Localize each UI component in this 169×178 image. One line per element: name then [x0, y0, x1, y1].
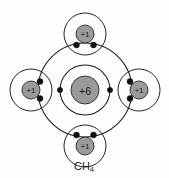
methane-molecule-illustration: +6 +1 +1 +1 +1 CH4: [0, 0, 169, 178]
bond-electron-right-lower-dot: [127, 96, 133, 102]
formula-base: CH: [74, 160, 90, 172]
inner-electron-left-dot: [57, 87, 62, 92]
bond-electron-left-upper-dot: [37, 79, 43, 85]
inner-electron-right-dot: [107, 87, 112, 92]
carbon-nucleus-charge-label: +6: [79, 85, 91, 97]
bond-electron-top-right-dot: [91, 42, 97, 48]
top-hydrogen-charge-label: +1: [80, 30, 90, 39]
bond-electron-right-upper-dot: [127, 79, 133, 85]
methane-diagram-canvas: +6 +1 +1 +1 +1 CH4: [0, 0, 169, 178]
bottom-hydrogen-charge-label: +1: [80, 142, 90, 151]
bond-electron-top-left-dot: [74, 42, 80, 48]
bond-electron-bottom-left-dot: [74, 132, 80, 138]
right-hydrogen-charge-label: +1: [134, 86, 144, 95]
bond-electron-left-lower-dot: [37, 96, 43, 102]
molecule-formula-label: CH4: [74, 160, 94, 174]
bond-electron-bottom-right-dot: [91, 132, 97, 138]
left-hydrogen-charge-label: +1: [26, 86, 36, 95]
formula-subscript: 4: [90, 165, 94, 174]
